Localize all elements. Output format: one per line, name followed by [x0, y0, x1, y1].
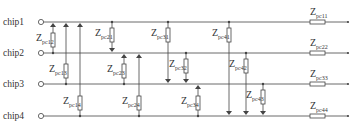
end-node-chip3 [347, 83, 349, 85]
arrow-icon-pc42 [243, 111, 249, 115]
series-resistor-chip3 [310, 82, 325, 86]
series-resistor-chip2 [310, 51, 325, 55]
rail-label-chip1: chip1 [3, 17, 24, 27]
series-resistor-chip4 [310, 114, 325, 118]
rail-label-chip3: chip3 [3, 79, 24, 89]
rail-label-chip2: chip2 [3, 48, 24, 58]
series-resistor-chip1 [310, 20, 325, 24]
coupling-impedance-diagram: chip1Zpc11chip2Zpc22chip3Zpc33chip4Zpc44… [0, 0, 355, 128]
arrow-icon-pc34 [195, 85, 201, 89]
arrow-icon-pc12 [50, 23, 56, 27]
junction-dot-pc31 [167, 21, 169, 23]
junction-dot-pc43 [262, 83, 264, 85]
arrow-icon-pc41 [226, 111, 232, 115]
junction-dot-pc41 [228, 21, 230, 23]
junction-dot-pc32 [185, 52, 187, 54]
arrow-icon-pc31 [165, 79, 171, 83]
junction-dot-pc21 [111, 21, 113, 23]
series-impedance-label-chip4: Zpc44 [310, 100, 328, 113]
junction-dot-pc13 [65, 83, 67, 85]
junction-dot-pc12 [52, 52, 54, 54]
terminal-chip4 [38, 113, 43, 118]
arrow-icon-pc23 [121, 54, 127, 58]
end-node-chip2 [347, 52, 349, 54]
arrow-icon-pc32 [183, 79, 189, 83]
end-node-chip4 [347, 115, 349, 117]
end-node-chip1 [347, 21, 349, 23]
terminal-chip2 [38, 50, 43, 55]
arrow-icon-pc14 [77, 23, 83, 27]
junction-dot-pc23 [123, 83, 125, 85]
arrow-icon-pc43 [260, 111, 266, 115]
arrow-icon-pc24 [136, 54, 142, 58]
junction-dot-pc24 [138, 115, 140, 117]
junction-dot-pc34 [197, 115, 199, 117]
series-impedance-label-chip2: Zpc22 [310, 37, 328, 50]
arrow-icon-pc21 [109, 48, 115, 52]
junction-dot-pc42 [245, 52, 247, 54]
rail-label-chip4: chip4 [3, 111, 24, 121]
arrow-icon-pc13 [63, 23, 69, 27]
junction-dot-pc14 [79, 115, 81, 117]
series-impedance-label-chip3: Zpc33 [310, 68, 328, 81]
terminal-chip1 [38, 19, 43, 24]
terminal-chip3 [38, 81, 43, 86]
series-impedance-label-chip1: Zpc11 [310, 6, 328, 19]
